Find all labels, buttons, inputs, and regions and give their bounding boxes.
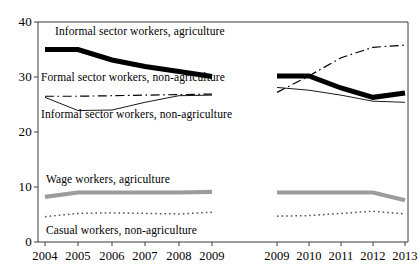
x-tick-label-2013: 2013: [381, 250, 418, 263]
series-label-informal-nonagriculture: Informal sector workers, non-agriculture: [41, 108, 232, 120]
y-tick-label-40: 40: [6, 15, 32, 28]
series-label-casual-nonagriculture: Casual workers, non-agriculture: [46, 224, 197, 236]
series-line-formal-sector-workers-non-agriculture: [277, 45, 405, 92]
series-label-informal-agriculture: Informal sector workers, agriculture: [55, 25, 225, 37]
x-tick-label-2009-left: 2009: [188, 250, 236, 263]
y-tick-label-30: 30: [6, 70, 32, 83]
series-line-wage-workers-agriculture: [45, 192, 212, 197]
chart-container: 40 30 20 10 0 2004 2005 2006 2007 2008 2…: [0, 0, 418, 268]
series-line-wage-workers-agriculture: [277, 193, 405, 201]
series-label-formal-nonagriculture: Formal sector workers, non-agriculture: [41, 71, 225, 83]
series-label-wage-agriculture: Wage workers, agriculture: [46, 173, 170, 185]
series-line-casual-workers-non-agriculture: [277, 211, 405, 216]
series-line-casual-workers-non-agriculture: [45, 212, 212, 216]
y-tick-label-0: 0: [6, 235, 32, 248]
y-tick-label-10: 10: [6, 180, 32, 193]
y-tick-label-20: 20: [6, 125, 32, 138]
series-line-informal-sector-workers-agriculture: [277, 76, 405, 97]
